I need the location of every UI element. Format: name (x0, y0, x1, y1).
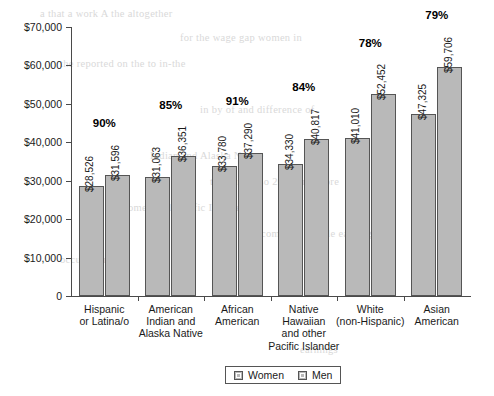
x-axis-tick (204, 296, 205, 301)
bar-value-label: $59,706 (444, 36, 454, 72)
x-axis-tick (337, 296, 338, 301)
y-axis-tick-label: $40,000 (0, 137, 62, 148)
ratio-label: 78% (340, 37, 400, 49)
ratio-label: 85% (141, 99, 201, 111)
bar-women (345, 138, 370, 296)
bar-men (105, 175, 130, 296)
ratio-label: 90% (74, 117, 134, 129)
y-axis-tick (66, 219, 72, 220)
y-axis-tick (66, 258, 72, 259)
y-axis-tick (66, 27, 72, 28)
bar-value-label: $34,330 (285, 134, 295, 170)
bar-chart: a that a work A the altogether for the w… (0, 0, 494, 396)
bar-men (171, 156, 196, 296)
y-axis-tick-label: 0 (0, 291, 62, 302)
y-axis-tick (66, 296, 72, 297)
bar-value-label: $33,780 (218, 136, 228, 172)
ratio-label: 91% (207, 95, 267, 107)
bar-value-label: $31,063 (152, 146, 162, 182)
bar-men (238, 153, 263, 296)
legend-swatch-icon (298, 371, 307, 380)
ratio-label: 79% (407, 9, 467, 21)
category-label: Asian American (389, 303, 485, 327)
bar-men (437, 67, 462, 296)
bar-value-label: $31,596 (111, 144, 121, 180)
y-axis-tick (66, 104, 72, 105)
y-axis-tick-label: $70,000 (0, 22, 62, 33)
y-axis-tick-label: $50,000 (0, 99, 62, 110)
y-axis-tick (66, 142, 72, 143)
legend-item-men: Men (298, 369, 332, 381)
bar-women (145, 177, 170, 296)
ghost-line: for the wage gap women in (180, 32, 302, 43)
bar-value-label: $40,817 (311, 109, 321, 145)
y-axis-tick (66, 65, 72, 66)
bar-value-label: $47,325 (418, 84, 428, 120)
y-axis-line (71, 27, 72, 297)
x-axis-tick (404, 296, 405, 301)
ghost-line: a that a work A the altogether (40, 8, 173, 19)
y-axis-tick-label: $60,000 (0, 60, 62, 71)
bar-value-label: $28,526 (85, 156, 95, 192)
y-axis-tick-label: $20,000 (0, 214, 62, 225)
ratio-label: 84% (274, 81, 334, 93)
legend-swatch-icon (234, 371, 243, 380)
bar-value-label: $52,452 (377, 64, 387, 100)
x-axis-tick (271, 296, 272, 301)
bar-women (411, 114, 436, 296)
bar-women (212, 166, 237, 296)
y-axis-tick-label: $30,000 (0, 176, 62, 187)
ghost-line: the reported on the to in-the (60, 58, 186, 69)
bar-men (371, 94, 396, 296)
legend-label-women: Women (248, 369, 284, 381)
bar-value-label: $37,290 (244, 123, 254, 159)
bar-men (304, 139, 329, 296)
bar-women (278, 164, 303, 296)
bar-women (79, 186, 104, 296)
bar-value-label: $41,010 (351, 108, 361, 144)
bar-value-label: $36,351 (178, 126, 188, 162)
legend-item-women: Women (234, 369, 284, 381)
x-axis-tick (138, 296, 139, 301)
legend-label-men: Men (312, 369, 332, 381)
y-axis-tick (66, 181, 72, 182)
y-axis-tick-label: $10,000 (0, 253, 62, 264)
legend: Women Men (225, 366, 341, 384)
